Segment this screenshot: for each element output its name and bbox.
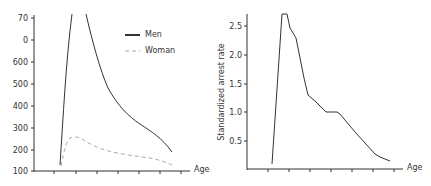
right-ytick: 0.5 <box>229 137 242 146</box>
chart-canvas: 70 0 600 500 400 300 200 100 Age Men Wom… <box>0 0 431 186</box>
right-ytick: 2.0 <box>229 51 242 60</box>
left-ytick: 300 <box>13 124 28 133</box>
left-ytick: 0 <box>23 36 28 45</box>
left-ytick: 400 <box>13 102 28 111</box>
right-ytick: 1.5 <box>229 80 242 89</box>
right-ytick: 2.5 <box>229 22 242 31</box>
left-ytick: 100 <box>13 167 28 176</box>
left-ytick: 70 <box>18 14 28 23</box>
woman-line <box>61 137 172 166</box>
legend-men-label: Men <box>145 30 162 39</box>
right-chart: 2.5 2.0 1.5 1.0 0.5 Standardized arrest … <box>217 14 423 172</box>
left-ytick: 500 <box>13 80 28 89</box>
right-y-label: Standardized arrest rate <box>217 43 226 141</box>
left-chart: 70 0 600 500 400 300 200 100 Age Men Wom… <box>13 14 210 176</box>
left-x-label: Age <box>194 165 210 174</box>
left-ytick: 200 <box>13 146 28 155</box>
right-ytick: 1.0 <box>229 108 242 117</box>
legend-woman-label: Woman <box>145 46 175 55</box>
left-ytick: 600 <box>13 58 28 67</box>
arrest-rate-line <box>272 14 390 164</box>
right-x-label: Age <box>407 163 423 172</box>
